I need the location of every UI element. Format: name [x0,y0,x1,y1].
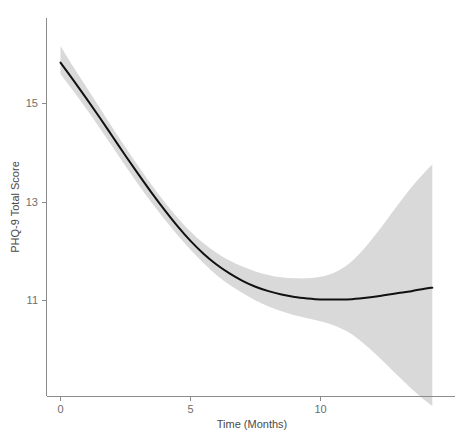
x-tick-label-10: 10 [314,403,326,415]
x-tick-label-5: 5 [187,403,193,415]
y-tick-label-15: 15 [26,97,38,109]
y-tick-label-13: 13 [26,196,38,208]
chart-figure: 15 13 11 0 5 10 Time (Months) PHQ-9 Tota… [0,0,462,436]
x-tick-label-0: 0 [57,403,63,415]
x-axis-title: Time (Months) [217,418,288,430]
y-tick-label-11: 11 [27,294,38,306]
y-axis-title: PHQ-9 Total Score [9,161,21,253]
phq9-trajectory-chart: 15 13 11 0 5 10 Time (Months) PHQ-9 Tota… [0,0,462,436]
